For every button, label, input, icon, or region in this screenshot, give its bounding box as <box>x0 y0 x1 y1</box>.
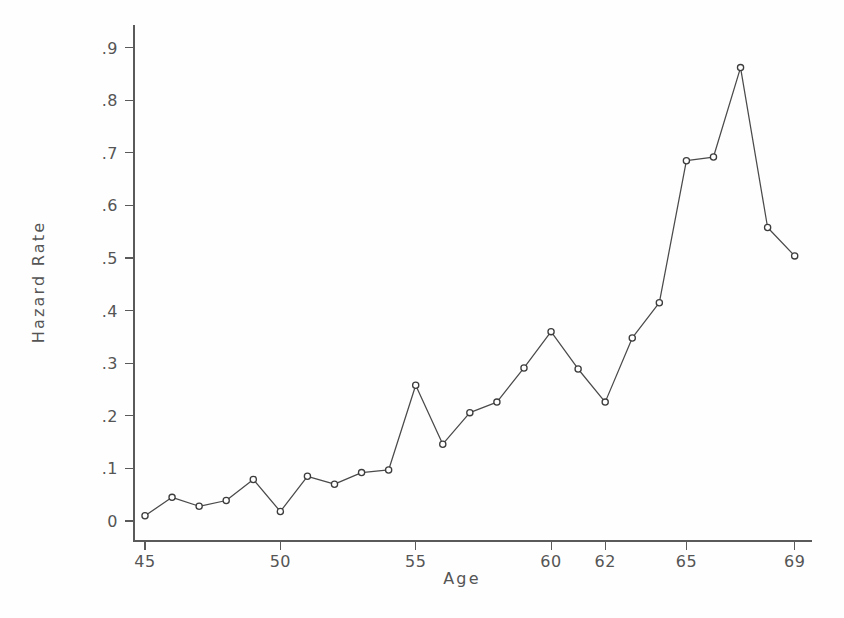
x-tick-label: 60 <box>540 552 561 571</box>
data-point-marker <box>683 158 689 164</box>
data-point-marker <box>792 253 798 259</box>
data-point-marker <box>440 441 446 447</box>
axis-lines <box>134 25 812 541</box>
data-point-marker <box>169 494 175 500</box>
data-point-marker <box>277 508 283 514</box>
data-point-marker <box>629 335 635 341</box>
data-point-marker <box>467 410 473 416</box>
data-point-marker <box>196 503 202 509</box>
y-tick-label: .5 <box>102 249 118 268</box>
y-tick-label: .3 <box>102 354 118 373</box>
data-point-marker <box>548 329 554 335</box>
y-axis-title: Hazard Rate <box>29 221 48 343</box>
data-point-marker <box>331 481 337 487</box>
y-tick-label: .6 <box>102 196 118 215</box>
data-point-marker <box>602 399 608 405</box>
x-tick-label: 65 <box>676 552 697 571</box>
data-point-marker <box>710 154 716 160</box>
data-point-marker <box>250 476 256 482</box>
data-point-marker <box>223 497 229 503</box>
data-series <box>142 64 798 518</box>
y-tick-label: .9 <box>102 39 118 58</box>
data-point-marker <box>494 399 500 405</box>
x-axis-ticks: 45505560626569 <box>134 541 805 571</box>
series-line-hazard-rate <box>145 68 795 516</box>
data-point-marker <box>656 300 662 306</box>
x-tick-label: 69 <box>784 552 805 571</box>
y-tick-label: .8 <box>102 91 118 110</box>
axes <box>134 25 812 541</box>
data-point-marker <box>575 366 581 372</box>
y-tick-label: .1 <box>102 459 118 478</box>
y-tick-label: .2 <box>102 407 118 426</box>
x-tick-label: 45 <box>134 552 155 571</box>
y-tick-label: 0 <box>107 512 118 531</box>
x-tick-label: 62 <box>595 552 616 571</box>
y-tick-label: .4 <box>102 302 118 321</box>
data-point-marker <box>521 365 527 371</box>
y-axis-ticks: 0.1.2.3.4.5.6.7.8.9 <box>102 39 134 531</box>
data-point-marker <box>413 382 419 388</box>
data-point-marker <box>386 467 392 473</box>
hazard-rate-line-chart: 0.1.2.3.4.5.6.7.8.9 45505560626569 Age H… <box>0 0 844 618</box>
x-tick-label: 50 <box>270 552 291 571</box>
y-tick-label: .7 <box>102 144 118 163</box>
data-point-marker <box>765 224 771 230</box>
data-point-marker <box>304 473 310 479</box>
x-axis-title: Age <box>443 569 481 588</box>
data-point-markers <box>142 64 798 518</box>
data-point-marker <box>737 64 743 70</box>
data-point-marker <box>142 513 148 519</box>
x-tick-label: 55 <box>405 552 426 571</box>
data-point-marker <box>358 470 364 476</box>
chart-page: 0.1.2.3.4.5.6.7.8.9 45505560626569 Age H… <box>0 0 844 618</box>
